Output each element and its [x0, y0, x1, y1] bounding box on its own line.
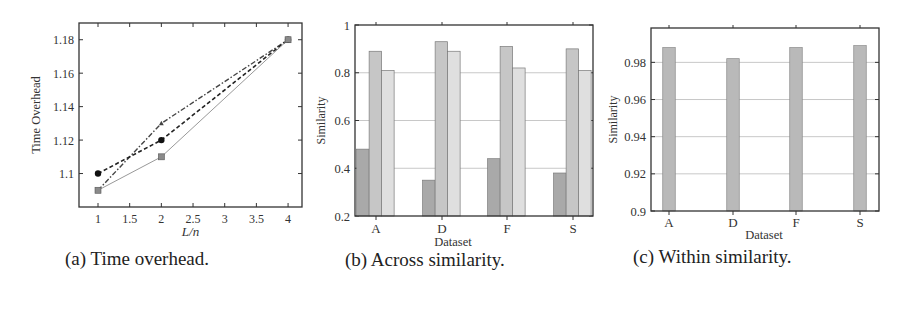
bar [566, 49, 579, 216]
circle-marker [95, 170, 101, 176]
x-axis-label: Dataset [434, 235, 472, 249]
x-tick-label: D [728, 215, 737, 230]
y-tick-label: 0.94 [624, 130, 647, 144]
bar [435, 42, 448, 216]
x-axis-label: L/n [181, 224, 199, 239]
x-tick-label: S [856, 215, 863, 230]
square-marker [95, 187, 101, 193]
square-marker [285, 37, 291, 43]
x-tick-label: 1.5 [122, 212, 137, 226]
bar [357, 149, 370, 216]
x-tick-label: A [664, 215, 674, 230]
y-axis-label: Similarity [314, 97, 328, 145]
caption-across-similarity: (b) Across similarity. [345, 249, 505, 271]
y-tick-label: 1 [344, 19, 350, 33]
bar-chart-plot: 0.90.920.940.960.98SimilarityDatasetADFS [600, 0, 909, 245]
chart-time-overhead: 1.11.121.141.161.18Time OverheadL/n11.52… [0, 0, 310, 245]
y-tick-label: 1.1 [59, 167, 74, 181]
y-tick-label: 0.92 [624, 167, 646, 181]
bar [382, 70, 395, 216]
line-chart-plot: 1.11.121.141.161.18Time OverheadL/n11.52… [0, 0, 310, 245]
x-tick-label: 4 [285, 212, 291, 226]
plot-frame [651, 28, 879, 211]
bar [854, 46, 867, 211]
y-tick-label: 0.2 [334, 210, 350, 224]
x-tick-label: D [437, 221, 446, 236]
x-tick-label: 1 [95, 212, 101, 226]
x-tick-label: 2 [158, 212, 164, 226]
y-tick-label: 1.18 [53, 33, 74, 47]
y-tick-label: 1.14 [53, 100, 74, 114]
y-tick-label: 0.9 [630, 205, 646, 219]
caption-time-overhead: (a) Time overhead. [65, 248, 209, 270]
y-tick-label: 1.16 [53, 67, 74, 81]
x-axis-label: Dataset [745, 228, 783, 242]
circle-marker [158, 137, 164, 143]
bar [488, 159, 501, 216]
x-tick-label: 3.5 [249, 212, 264, 226]
y-tick-label: 0.98 [624, 56, 646, 70]
grouped-bar-chart-plot: 0.20.40.60.81SimilarityDatasetADFS [300, 0, 600, 245]
chart-across-similarity: 0.20.40.60.81SimilarityDatasetADFS [300, 0, 600, 245]
bar [663, 48, 676, 211]
x-tick-label: F [792, 215, 799, 230]
x-tick-label: 2.5 [186, 212, 201, 226]
chart-within-similarity: 0.90.920.940.960.98SimilarityDatasetADFS [600, 0, 909, 245]
bar [369, 51, 382, 216]
y-tick-label: 0.6 [334, 114, 350, 128]
series-line [98, 40, 288, 174]
x-tick-label: A [371, 221, 381, 236]
bar [554, 173, 567, 216]
plot-frame [79, 23, 302, 207]
caption-within-similarity: (c) Within similarity. [633, 246, 792, 268]
square-marker [158, 154, 164, 160]
y-tick-label: 1.12 [53, 134, 74, 148]
bar [727, 59, 740, 211]
x-tick-label: F [503, 221, 510, 236]
y-axis-label: Time Overhead [29, 75, 43, 153]
bar [579, 70, 592, 216]
y-tick-label: 0.4 [334, 162, 350, 176]
y-tick-label: 0.8 [334, 66, 350, 80]
y-tick-label: 0.96 [624, 93, 646, 107]
bar [513, 68, 526, 216]
bar [790, 48, 803, 211]
x-tick-label: 3 [222, 212, 228, 226]
bar [500, 46, 513, 216]
bar [423, 180, 436, 216]
y-axis-label: Similarity [606, 96, 620, 144]
bar [448, 51, 461, 216]
x-tick-label: S [569, 221, 576, 236]
